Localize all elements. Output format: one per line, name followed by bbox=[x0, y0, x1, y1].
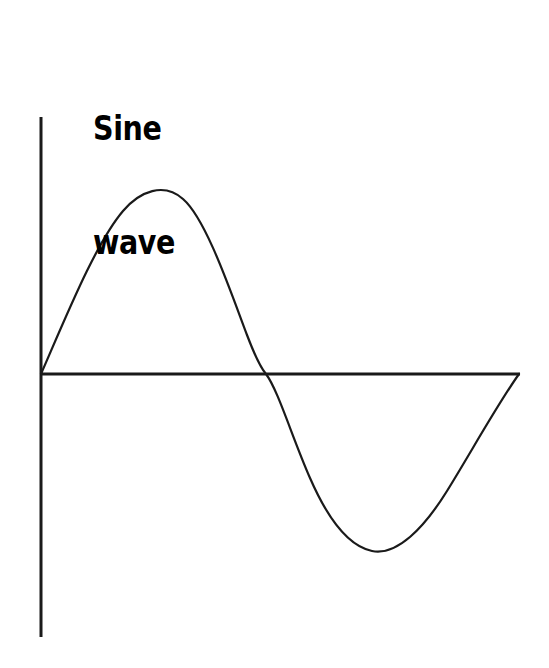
chart-title-line-2: wave bbox=[93, 223, 175, 261]
chart-title-line-1: Sine bbox=[93, 109, 175, 147]
plot-area bbox=[0, 0, 549, 668]
figure-background bbox=[0, 0, 549, 668]
chart-title: Sine wave bbox=[93, 33, 175, 337]
sine-wave-figure: Sine wave bbox=[0, 0, 549, 668]
